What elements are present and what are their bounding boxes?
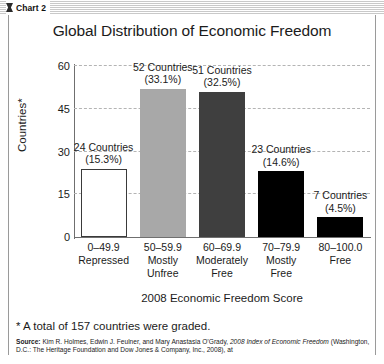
bar-group: 23 Countries(14.6%)	[258, 66, 304, 237]
bar-percent-label: (4.5%)	[314, 202, 368, 215]
x-category-label: 80–100.0Free	[308, 241, 372, 267]
x-category-label: 0–49.9Repressed	[72, 241, 136, 267]
bar-count-label: 7 Countries	[314, 189, 368, 202]
bar[interactable]	[199, 92, 245, 237]
bar-value-label: 51 Countries(32.5%)	[192, 64, 252, 89]
chart-window: Chart 2 Global Distribution of Economic …	[0, 0, 384, 364]
x-category-label: 70–79.9MostlyFree	[249, 241, 313, 280]
x-category-range: 70–79.9	[249, 241, 313, 254]
bar-count-label: 52 Countries	[133, 61, 193, 74]
bar-percent-label: (14.6%)	[251, 156, 311, 169]
y-tick-label: 30	[44, 146, 70, 158]
x-category-name: Repressed	[72, 254, 136, 267]
source-label: Source:	[16, 338, 41, 345]
bar-percent-label: (32.5%)	[192, 76, 252, 89]
x-category-name: Moderately	[190, 254, 254, 267]
bar-group: 24 Countries(15.3%)	[81, 66, 127, 237]
y-tick-label: 15	[44, 188, 70, 200]
bar-value-label: 7 Countries(4.5%)	[314, 189, 368, 214]
plot-area: 24 Countries(15.3%)52 Countries(33.1%)51…	[74, 66, 370, 237]
x-category-name: Mostly	[249, 254, 313, 267]
bar-group: 7 Countries(4.5%)	[317, 66, 363, 237]
y-axis-title: Countries*	[16, 98, 28, 152]
bar[interactable]	[140, 89, 186, 237]
bar-count-label: 51 Countries	[192, 64, 252, 77]
x-category-range: 0–49.9	[72, 241, 136, 254]
x-category-label: 60–69.9ModeratelyFree	[190, 241, 254, 280]
source-title: 2008 Index of Economic Freedom	[230, 338, 329, 345]
y-tick-label: 45	[44, 103, 70, 115]
bar-percent-label: (33.1%)	[133, 73, 193, 86]
source-note: Source: Kim R. Holmes, Edwin J. Feulner,…	[16, 338, 376, 355]
bar[interactable]	[81, 169, 127, 237]
titlebar-label: Chart 2	[16, 3, 46, 13]
bar-value-label: 24 Countries(15.3%)	[74, 141, 134, 166]
bar-value-label: 23 Countries(14.6%)	[251, 143, 311, 168]
chart-title: Global Distribution of Economic Freedom	[0, 22, 384, 40]
bar-value-label: 52 Countries(33.1%)	[133, 61, 193, 86]
x-category-range: 80–100.0	[308, 241, 372, 254]
chart-bar-icon	[6, 3, 13, 12]
x-axis-title: 2008 Economic Freedom Score	[74, 292, 370, 304]
x-category-name-line2: Free	[249, 267, 313, 280]
x-category-label: 50–59.9MostlyUnfree	[131, 241, 195, 280]
x-category-name: Free	[308, 254, 372, 267]
footnote: * A total of 157 countries were graded.	[16, 320, 210, 332]
x-category-name-line2: Free	[190, 267, 254, 280]
y-tick-label: 0	[44, 231, 70, 243]
titlebar-label-group: Chart 2	[6, 1, 50, 14]
x-category-range: 60–69.9	[190, 241, 254, 254]
bar[interactable]	[258, 171, 304, 237]
x-category-name: Mostly	[131, 254, 195, 267]
bar-count-label: 23 Countries	[251, 143, 311, 156]
bar-percent-label: (15.3%)	[74, 153, 134, 166]
x-category-range: 50–59.9	[131, 241, 195, 254]
bar[interactable]	[317, 217, 363, 237]
bar-group: 51 Countries(32.5%)	[199, 66, 245, 237]
y-tick-label: 60	[44, 60, 70, 72]
source-text-before: Kim R. Holmes, Edwin J. Feulner, and Mar…	[41, 338, 230, 345]
window-titlebar: Chart 2	[0, 0, 384, 15]
bar-group: 52 Countries(33.1%)	[140, 66, 186, 237]
x-category-name-line2: Unfree	[131, 267, 195, 280]
x-axis-line	[74, 237, 371, 238]
bar-count-label: 24 Countries	[74, 141, 134, 154]
